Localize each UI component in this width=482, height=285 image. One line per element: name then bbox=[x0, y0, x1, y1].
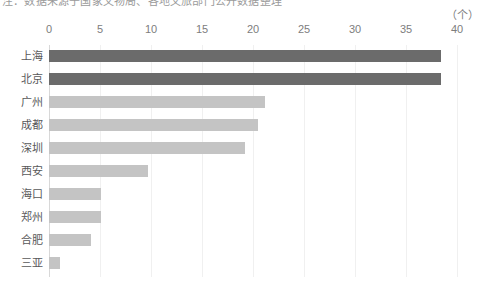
bar-value: 5.1 bbox=[0, 183, 1, 184]
bar-value: 19.2 bbox=[0, 137, 1, 138]
bar-value: 1.1 bbox=[0, 252, 1, 253]
category-label: 西安 bbox=[0, 164, 43, 178]
chart-caption-clipped: 注：数据来源于国家文物局、各地文旅部门公开数据整理 bbox=[0, 0, 482, 7]
category-label: 上海 bbox=[0, 49, 43, 63]
bar bbox=[49, 119, 258, 131]
x-tick-label: 5 bbox=[97, 22, 103, 36]
category-label: 广州 bbox=[0, 95, 43, 109]
bar-row: 合肥4.1 bbox=[0, 229, 482, 252]
bar-value: 4.1 bbox=[0, 229, 1, 230]
bar bbox=[49, 96, 265, 108]
x-tick-label: 30 bbox=[349, 22, 361, 36]
category-label: 三亚 bbox=[0, 256, 43, 270]
bar-value: 5.1 bbox=[0, 206, 1, 207]
x-tick-label: 10 bbox=[145, 22, 157, 36]
bar-value: 38.4 bbox=[0, 68, 1, 69]
category-label: 深圳 bbox=[0, 141, 43, 155]
bar bbox=[49, 165, 148, 177]
bar-row: 深圳19.2 bbox=[0, 137, 482, 160]
bar-row: 北京38.4 bbox=[0, 68, 482, 91]
x-tick-label: 40 bbox=[451, 22, 463, 36]
bar bbox=[49, 211, 101, 223]
bar-row: 郑州5.1 bbox=[0, 206, 482, 229]
bar bbox=[49, 188, 101, 200]
x-tick-label: 20 bbox=[247, 22, 259, 36]
x-tick-label: 0 bbox=[46, 22, 52, 36]
category-label: 合肥 bbox=[0, 233, 43, 247]
bar bbox=[49, 142, 245, 154]
category-label: 郑州 bbox=[0, 210, 43, 224]
chart-caption-text: 注：数据来源于国家文物局、各地文旅部门公开数据整理 bbox=[2, 0, 282, 7]
bar bbox=[49, 257, 60, 269]
bar bbox=[49, 50, 441, 62]
bar-chart: 注：数据来源于国家文物局、各地文旅部门公开数据整理 （个） 0510152025… bbox=[0, 0, 482, 285]
category-label: 北京 bbox=[0, 72, 43, 86]
bar bbox=[49, 73, 441, 85]
bar-row: 西安9.7 bbox=[0, 160, 482, 183]
category-label: 成都 bbox=[0, 118, 43, 132]
bar-row: 三亚1.1 bbox=[0, 252, 482, 275]
bar-value: 20.5 bbox=[0, 114, 1, 115]
x-tick-label: 35 bbox=[400, 22, 412, 36]
category-label: 海口 bbox=[0, 187, 43, 201]
axis-unit-label: （个） bbox=[446, 9, 479, 21]
x-axis-tick-labels: 0510152025303540 bbox=[0, 22, 482, 36]
bar bbox=[49, 234, 91, 246]
bar-row: 海口5.1 bbox=[0, 183, 482, 206]
bar-value: 38.4 bbox=[0, 45, 1, 46]
bar-value: 21.2 bbox=[0, 91, 1, 92]
bar-row: 广州21.2 bbox=[0, 91, 482, 114]
x-tick-label: 25 bbox=[298, 22, 310, 36]
x-tick-label: 15 bbox=[196, 22, 208, 36]
bar-row: 上海38.4 bbox=[0, 45, 482, 68]
bar-value: 9.7 bbox=[0, 160, 1, 161]
bar-row: 成都20.5 bbox=[0, 114, 482, 137]
